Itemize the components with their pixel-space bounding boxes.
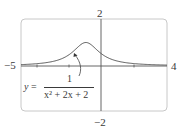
equation-denominator: x² + 2x + 2 xyxy=(44,89,88,100)
equation-numerator: 1 xyxy=(67,73,72,84)
x-max-label: 4 xyxy=(171,61,177,72)
equation-equals: = xyxy=(31,81,37,92)
function-curve xyxy=(21,43,167,66)
y-max-label: 2 xyxy=(97,8,103,19)
plot-canvas xyxy=(0,0,181,134)
x-min-label: −5 xyxy=(4,60,16,71)
y-min-label: −2 xyxy=(94,117,106,128)
fraction-bar xyxy=(44,87,94,88)
arrowhead-icon xyxy=(74,53,78,57)
equation-label: y = 1 x² + 2x + 2 xyxy=(23,73,95,101)
equation-lhs: y xyxy=(24,81,28,92)
